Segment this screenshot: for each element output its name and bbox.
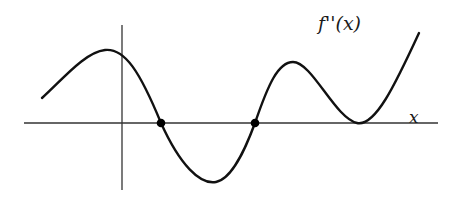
graph-canvas [0, 0, 456, 199]
function-label: f''(x) [318, 14, 361, 33]
graph-figure: f''(x) x [0, 0, 456, 199]
x-axis-label: x [409, 109, 419, 126]
zero-point-2 [251, 119, 260, 128]
second-derivative-curve [42, 33, 419, 182]
zero-point-1 [157, 119, 166, 128]
